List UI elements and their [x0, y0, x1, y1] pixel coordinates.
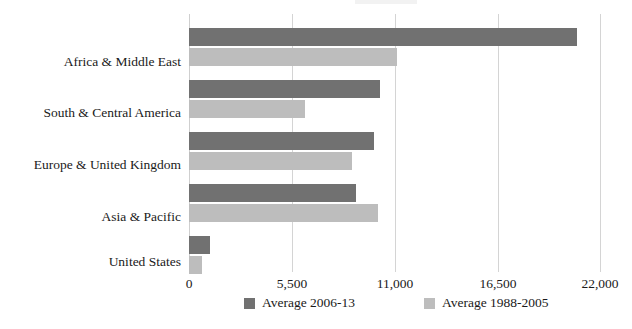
category-label-europe-united-kingdom: Europe & United Kingdom — [34, 158, 181, 172]
value-axis: 0 5,500 11,000 16,500 22,000 — [0, 276, 632, 294]
xtick-label-11000: 11,000 — [377, 276, 414, 292]
bar-africa-middle-east-older — [189, 48, 397, 66]
plot-area — [189, 14, 601, 272]
bar-asia-pacific-older — [189, 204, 378, 222]
gridline-16500 — [498, 14, 499, 272]
legend-item-average-2006-13[interactable]: Average 2006-13 — [244, 296, 355, 310]
category-label-south-central-america: South & Central America — [43, 106, 181, 120]
gridline-22000 — [600, 14, 601, 272]
legend-label-average-2006-13: Average 2006-13 — [262, 296, 355, 310]
chart-legend: Average 2006-13 Average 1988-2005 — [189, 296, 601, 316]
legend-item-average-1988-2005[interactable]: Average 1988-2005 — [424, 296, 549, 310]
bar-chart: Africa & Middle East South & Central Ame… — [0, 0, 632, 329]
category-label-asia-pacific: Asia & Pacific — [102, 210, 181, 224]
bar-south-central-america-recent — [189, 80, 380, 98]
category-axis: Africa & Middle East South & Central Ame… — [0, 14, 181, 272]
xtick-label-5500: 5,500 — [277, 276, 307, 292]
xtick-label-22000: 22,000 — [581, 276, 618, 292]
cropped-title-artifact — [355, 0, 417, 4]
category-label-united-states: United States — [109, 255, 181, 269]
bar-europe-united-kingdom-recent — [189, 132, 374, 150]
category-label-africa-middle-east: Africa & Middle East — [64, 55, 181, 69]
bar-africa-middle-east-recent — [189, 28, 577, 46]
bar-asia-pacific-recent — [189, 184, 356, 202]
xtick-label-0: 0 — [186, 276, 193, 292]
legend-label-average-1988-2005: Average 1988-2005 — [442, 296, 549, 310]
bar-united-states-recent — [189, 236, 210, 254]
bar-south-central-america-older — [189, 100, 305, 118]
legend-swatch-icon-recent — [244, 298, 255, 309]
bar-europe-united-kingdom-older — [189, 152, 352, 170]
legend-swatch-icon-older — [424, 298, 435, 309]
xtick-label-16500: 16,500 — [479, 276, 516, 292]
bar-united-states-older — [189, 256, 202, 274]
